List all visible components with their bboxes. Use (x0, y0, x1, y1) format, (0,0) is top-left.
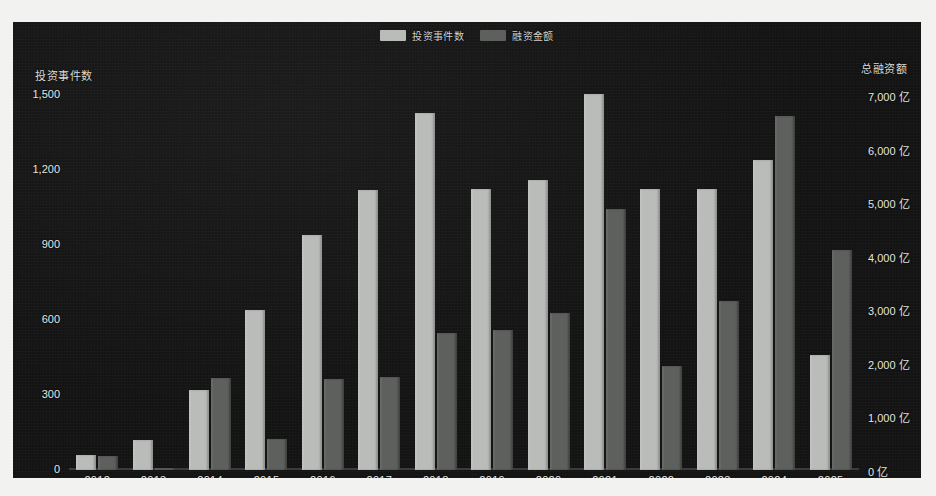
right-tick-6000: 6,000 亿 (868, 142, 910, 158)
legend-label-financing-amount: 融资金额 (512, 28, 554, 43)
bar-group-2025 (802, 95, 858, 470)
left-tick-900: 900 (42, 238, 60, 250)
legend-swatch-financing-amount (480, 30, 506, 41)
bar-group-2018 (408, 95, 464, 470)
x-label-2019: 2019 (464, 474, 520, 478)
bar-financing-amount-2017[interactable] (380, 377, 400, 470)
right-tick-4000: 4,000 亿 (868, 249, 910, 265)
bar-financing-amount-2014[interactable] (211, 378, 231, 470)
chart-legend: 投资事件数 融资金额 (13, 28, 921, 43)
plot-area: 1,5001,2009006003000 7,000 亿6,000 亿5,000… (69, 95, 859, 470)
bar-group-2017 (351, 95, 407, 470)
bar-group-2022 (633, 95, 689, 470)
x-label-2012: 2012 (69, 474, 125, 478)
left-tick-1200: 1,200 (32, 163, 60, 175)
bar-investment-events-2016[interactable] (302, 235, 322, 470)
bar-groups (69, 95, 859, 470)
legend-label-investment-events: 投资事件数 (412, 28, 464, 43)
bar-financing-amount-2012[interactable] (98, 456, 118, 470)
x-label-2018: 2018 (408, 474, 464, 478)
x-label-2025: 2025 (802, 474, 858, 478)
x-label-2014: 2014 (182, 474, 238, 478)
right-tick-0: 0 亿 (868, 463, 888, 478)
chart-screenshot: 投资事件数 融资金额 投资事件数 总融资额 1,5001,20090060030… (0, 0, 936, 496)
right-tick-2000: 2,000 亿 (868, 356, 910, 372)
x-label-2015: 2015 (238, 474, 294, 478)
bar-group-2023 (690, 95, 746, 470)
legend-item-investment-events[interactable]: 投资事件数 (380, 28, 464, 43)
bar-investment-events-2023[interactable] (697, 189, 717, 470)
x-label-2022: 2022 (633, 474, 689, 478)
bar-financing-amount-2021[interactable] (606, 209, 626, 470)
bar-investment-events-2020[interactable] (528, 180, 548, 470)
bar-investment-events-2012[interactable] (76, 455, 96, 470)
bar-group-2021 (577, 95, 633, 470)
right-tick-7000: 7,000 亿 (868, 88, 910, 104)
bar-financing-amount-2015[interactable] (267, 439, 287, 470)
bar-investment-events-2014[interactable] (189, 390, 209, 470)
bar-financing-amount-2023[interactable] (719, 301, 739, 470)
left-axis-title: 投资事件数 (35, 67, 93, 83)
right-tick-3000: 3,000 亿 (868, 302, 910, 318)
bar-group-2016 (295, 95, 351, 470)
chart-panel: 投资事件数 融资金额 投资事件数 总融资额 1,5001,20090060030… (13, 22, 921, 478)
bar-group-2024 (746, 95, 802, 470)
x-label-2024: 2024 (746, 474, 802, 478)
x-axis-labels: 2012201320142015201620172018201920202021… (69, 474, 859, 478)
bar-investment-events-2019[interactable] (471, 189, 491, 470)
right-axis-title: 总融资额 (861, 60, 907, 76)
bar-group-2013 (125, 95, 181, 470)
bar-financing-amount-2016[interactable] (324, 379, 344, 470)
bar-financing-amount-2018[interactable] (437, 333, 457, 470)
x-label-2020: 2020 (520, 474, 576, 478)
left-tick-1500: 1,500 (32, 88, 60, 100)
bar-investment-events-2024[interactable] (753, 160, 773, 470)
bar-investment-events-2021[interactable] (584, 94, 604, 470)
bar-financing-amount-2020[interactable] (550, 313, 570, 470)
bar-financing-amount-2022[interactable] (662, 366, 682, 470)
bar-investment-events-2017[interactable] (358, 190, 378, 470)
bar-investment-events-2013[interactable] (133, 440, 153, 470)
x-label-2021: 2021 (577, 474, 633, 478)
bar-investment-events-2022[interactable] (640, 189, 660, 470)
bar-group-2020 (520, 95, 576, 470)
x-label-2016: 2016 (295, 474, 351, 478)
right-tick-5000: 5,000 亿 (868, 195, 910, 211)
bar-investment-events-2025[interactable] (810, 355, 830, 470)
x-label-2023: 2023 (690, 474, 746, 478)
legend-swatch-investment-events (380, 30, 406, 41)
bar-investment-events-2018[interactable] (415, 113, 435, 471)
bar-financing-amount-2013[interactable] (155, 468, 175, 470)
bar-group-2012 (69, 95, 125, 470)
bar-financing-amount-2019[interactable] (493, 330, 513, 470)
bar-group-2014 (182, 95, 238, 470)
left-tick-600: 600 (42, 313, 60, 325)
left-tick-300: 300 (42, 388, 60, 400)
x-label-2013: 2013 (125, 474, 181, 478)
right-tick-1000: 1,000 亿 (868, 409, 910, 425)
bar-investment-events-2015[interactable] (245, 310, 265, 470)
bar-group-2019 (464, 95, 520, 470)
legend-item-financing-amount[interactable]: 融资金额 (480, 28, 554, 43)
bar-financing-amount-2025[interactable] (832, 250, 852, 470)
bar-group-2015 (238, 95, 294, 470)
left-tick-0: 0 (54, 463, 60, 475)
bar-financing-amount-2024[interactable] (775, 116, 795, 470)
x-label-2017: 2017 (351, 474, 407, 478)
